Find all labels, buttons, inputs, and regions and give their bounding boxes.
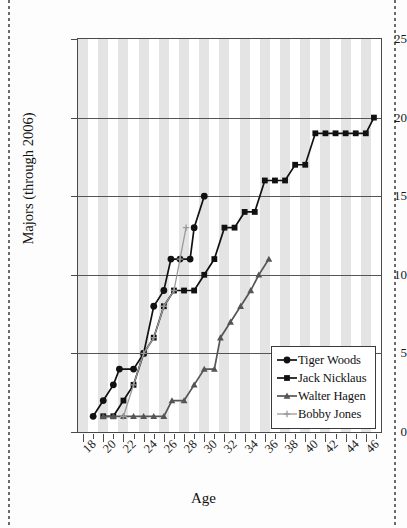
x-tick-mark-minor <box>93 434 94 439</box>
filled-circle-marker <box>168 256 175 263</box>
chart-figure: 0510152025 Majors (through 2006) 1820222… <box>0 0 407 528</box>
filled-square-marker <box>292 162 298 168</box>
chart-legend: Tiger WoodsJack NicklausWalter HagenBobb… <box>271 346 376 429</box>
x-tick-mark-minor <box>376 434 377 439</box>
filled-circle-icon <box>276 352 298 368</box>
x-tick-mark-minor <box>214 434 215 439</box>
legend-label: Jack Nicklaus <box>298 371 366 386</box>
series-line <box>93 196 204 416</box>
filled-square-marker <box>222 225 228 231</box>
filled-circle-marker <box>116 366 123 373</box>
filled-circle-marker <box>100 397 107 404</box>
plus-icon <box>276 406 298 422</box>
x-tick-mark-minor <box>336 434 337 439</box>
series-walter-hagen <box>100 256 272 419</box>
filled-square-marker <box>272 178 278 184</box>
page-scan-edge-right <box>394 0 396 528</box>
legend-item-walter-hagen[interactable]: Walter Hagen <box>276 387 370 405</box>
filled-square-marker <box>232 225 238 231</box>
filled-square-marker <box>343 130 349 136</box>
filled-circle-marker <box>191 224 198 231</box>
x-axis-label: Age <box>0 490 407 507</box>
filled-circle-marker <box>110 381 117 388</box>
filled-circle-marker <box>150 303 157 310</box>
x-tick-mark-minor <box>113 434 114 439</box>
legend-item-bobby-jones[interactable]: Bobby Jones <box>276 405 370 423</box>
filled-square-marker <box>363 130 369 136</box>
x-tick-mark-minor <box>255 434 256 439</box>
filled-square-marker <box>191 288 197 294</box>
legend-label: Walter Hagen <box>298 389 366 404</box>
triangle-marker <box>265 256 272 262</box>
filled-circle-marker <box>90 413 97 420</box>
filled-square-marker <box>252 209 258 215</box>
x-tick-mark-minor <box>174 434 175 439</box>
x-tick-mark-minor <box>194 434 195 439</box>
x-tick-mark-minor <box>356 434 357 439</box>
filled-square-marker <box>201 272 207 278</box>
filled-square-marker <box>284 375 290 381</box>
legend-item-jack-nicklaus[interactable]: Jack Nicklaus <box>276 369 370 387</box>
filled-square-marker <box>181 288 187 294</box>
x-tick-mark-minor <box>235 434 236 439</box>
filled-square-marker <box>242 209 248 215</box>
filled-square-marker <box>353 130 359 136</box>
x-tick-mark-minor <box>154 434 155 439</box>
filled-square-marker <box>312 130 318 136</box>
filled-square-marker <box>371 115 377 121</box>
plus-marker <box>183 224 189 230</box>
filled-circle-marker <box>187 256 194 263</box>
triangle-marker <box>247 287 254 293</box>
series-tiger-woods <box>90 193 208 420</box>
legend-label: Tiger Woods <box>298 353 361 368</box>
filled-square-marker <box>333 130 339 136</box>
x-tick-mark-minor <box>315 434 316 439</box>
filled-circle-marker <box>201 193 208 200</box>
filled-circle-marker <box>160 287 167 294</box>
filled-square-marker <box>211 256 217 262</box>
series-line <box>123 228 186 417</box>
plus-marker <box>284 411 290 417</box>
x-tick-mark-minor <box>275 434 276 439</box>
filled-square-marker <box>302 162 308 168</box>
filled-square-marker <box>121 398 127 404</box>
legend-label: Bobby Jones <box>298 407 361 422</box>
filled-circle-marker <box>284 357 291 364</box>
triangle-icon <box>276 388 298 404</box>
filled-square-marker <box>262 178 268 184</box>
x-tick-mark-minor <box>134 434 135 439</box>
filled-square-icon <box>276 370 298 386</box>
y-axis-label: Majors (through 2006) <box>20 59 37 299</box>
filled-square-marker <box>323 130 329 136</box>
filled-circle-marker <box>130 366 137 373</box>
filled-square-marker <box>282 178 288 184</box>
page-scan-edge-left <box>8 0 10 528</box>
x-tick-mark-minor <box>295 434 296 439</box>
legend-item-tiger-woods[interactable]: Tiger Woods <box>276 351 370 369</box>
